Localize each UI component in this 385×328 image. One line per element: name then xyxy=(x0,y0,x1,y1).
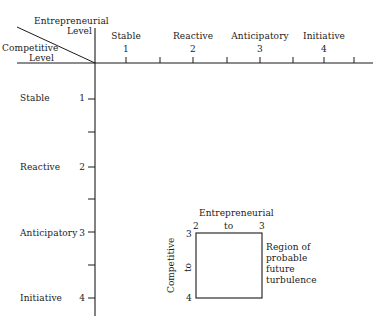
horizontal-ticks xyxy=(126,57,354,63)
corner-top-line1: Entrepreneurial xyxy=(34,16,92,26)
box-competitive-title: Competitive xyxy=(166,238,176,293)
corner-bottom-line1: Competitive xyxy=(2,43,54,53)
v-axis-number-3: 3 xyxy=(73,228,85,238)
v-axis-label-initiative: Initiative xyxy=(20,293,62,303)
box-top-right-value: 3 xyxy=(259,221,265,231)
annotation-line3: future xyxy=(266,264,336,275)
annotation-line2: probable xyxy=(266,253,336,264)
corner-top-line2: Level xyxy=(34,26,92,36)
v-axis-label-anticipatory: Anticipatory xyxy=(20,228,77,238)
turbulence-region-box xyxy=(196,233,262,298)
annotation-line4: turbulence xyxy=(266,275,336,286)
corner-entrepreneurial-label: Entrepreneurial Level xyxy=(34,16,92,36)
turbulence-annotation: Region of probable future turbulence xyxy=(266,242,336,286)
h-axis-number-1: 1 xyxy=(116,44,136,54)
box-top-left-value: 2 xyxy=(193,221,199,231)
box-side-to: to xyxy=(183,263,193,272)
h-axis-label-initiative: Initiative xyxy=(284,31,364,41)
v-axis-number-2: 2 xyxy=(73,162,85,172)
v-axis-label-reactive: Reactive xyxy=(20,162,60,172)
box-entrepreneurial-title: Entrepreneurial xyxy=(199,208,274,218)
box-top-to: to xyxy=(224,221,233,231)
h-axis-number-3: 3 xyxy=(250,44,270,54)
box-side-top-value: 3 xyxy=(186,229,192,239)
v-axis-label-stable: Stable xyxy=(20,93,50,103)
h-axis-number-4: 4 xyxy=(314,44,334,54)
v-axis-number-4: 4 xyxy=(73,293,85,303)
v-axis-number-1: 1 xyxy=(73,93,85,103)
h-axis-number-2: 2 xyxy=(183,44,203,54)
corner-competitive-label: Competitive Level xyxy=(2,43,54,63)
box-side-bottom-value: 4 xyxy=(186,293,192,303)
annotation-line1: Region of xyxy=(266,242,336,253)
corner-bottom-line2: Level xyxy=(2,53,54,63)
vertical-ticks xyxy=(88,99,95,298)
